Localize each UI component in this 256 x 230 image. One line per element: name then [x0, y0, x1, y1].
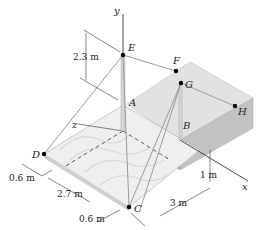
- label-z: z: [71, 119, 78, 130]
- label-a: A: [128, 97, 136, 108]
- dim-c-offset: 0.6 m: [79, 214, 105, 224]
- point-h: [233, 104, 237, 108]
- label-x: x: [242, 181, 248, 192]
- label-c: C: [134, 203, 142, 214]
- dim-ae-height: 2.3 m: [73, 52, 99, 62]
- point-d: [42, 152, 46, 156]
- point-g: [179, 81, 183, 85]
- label-e: E: [127, 42, 136, 53]
- dim-b-height: 1 m: [200, 170, 218, 180]
- post-bg: [179, 83, 182, 140]
- dim-dc-span: 2.7 m: [57, 189, 83, 199]
- label-y: y: [113, 5, 120, 16]
- dim-b-offset-x: 3 m: [170, 198, 188, 208]
- label-b: B: [182, 120, 190, 131]
- point-f: [174, 69, 178, 73]
- diagram-canvas: y z x E F G H A B D C 2.3 m 0.6 m 2.7 m …: [0, 0, 256, 230]
- point-e: [121, 53, 125, 57]
- label-h: H: [237, 106, 247, 117]
- label-d: D: [31, 149, 40, 160]
- label-f: F: [172, 55, 181, 66]
- dim-d-offset: 0.6 m: [9, 173, 35, 183]
- label-g: G: [185, 79, 193, 90]
- point-c: [127, 205, 131, 209]
